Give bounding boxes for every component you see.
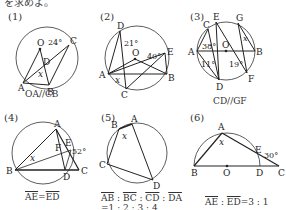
svg-text:D: D (117, 21, 124, 31)
arc-label: ED (227, 197, 241, 207)
svg-text:x: x (30, 153, 35, 163)
svg-text:B: B (168, 73, 175, 83)
arc-label: BC (123, 193, 137, 203)
svg-text:40°: 40° (147, 52, 161, 61)
svg-text:x: x (115, 75, 120, 85)
problem-4: (4) A F E B D C 52° x AE=ED (0, 109, 95, 210)
arc-label: AE (205, 197, 218, 207)
problem-6: (6) A E B O D C 30° x AE : ED=3 : 1 (186, 109, 286, 210)
svg-text:A: A (130, 114, 138, 124)
svg-text:C: C (99, 160, 106, 170)
arc-label: AB (101, 193, 114, 203)
svg-text:D: D (256, 168, 263, 178)
svg-text:38°: 38° (202, 42, 216, 51)
arc-label: ED (46, 192, 60, 202)
svg-text:D: D (63, 172, 70, 182)
problem-set: (1) O C D A B 24° x OA//CB (2) (0, 9, 286, 210)
svg-text:E: E (65, 138, 72, 148)
problem-2: (2) D O E A B C 21° 40° x (95, 9, 190, 109)
svg-text:C: C (81, 166, 88, 176)
problem-caption: AE=ED (25, 192, 59, 202)
svg-text:x: x (122, 131, 127, 141)
svg-text:30°: 30° (264, 151, 278, 160)
svg-text:A: A (187, 47, 195, 57)
svg-text:G: G (236, 13, 243, 23)
svg-text:F: F (248, 74, 254, 84)
problem-caption: CD//GF (213, 96, 247, 106)
problem-1: (1) O C D A B 24° x OA//CB (0, 9, 95, 109)
svg-text:21°: 21° (124, 39, 138, 48)
svg-text:C: C (121, 90, 128, 100)
arc-ratio-line: AB : BC : CD : DA (101, 193, 182, 203)
svg-text:C: C (278, 168, 285, 178)
svg-text:A: A (53, 119, 61, 129)
svg-text:D: D (153, 181, 160, 191)
svg-text:B: B (111, 120, 118, 130)
cropped-instruction-text: を求めよ。 (4, 0, 54, 9)
svg-text:D: D (43, 57, 50, 67)
arc-label: AE (25, 192, 38, 202)
problem-3: (3) C E G A O B D F 38° 11° 19° x CD//GF (186, 9, 286, 109)
svg-text:A: A (17, 83, 25, 93)
equals-sign: = (38, 192, 46, 202)
svg-text:A: A (217, 122, 225, 132)
svg-text:E: E (255, 145, 262, 155)
problem-caption: OA//CB (25, 89, 58, 99)
ratio-values: =1 : 2 : 3 : 4 (101, 203, 182, 210)
svg-text:24°: 24° (48, 38, 62, 47)
geometry-diagram-2: D O E A B C 21° 40° x (95, 9, 190, 109)
geometry-diagram-3: C E G A O B D F 38° 11° 19° x (186, 9, 286, 109)
svg-text:D: D (216, 82, 223, 92)
svg-text:B: B (256, 47, 263, 57)
svg-text:B: B (6, 166, 13, 176)
svg-text:19°: 19° (229, 60, 243, 69)
svg-text:52°: 52° (72, 147, 86, 156)
svg-text:11°: 11° (201, 60, 215, 69)
svg-text:E: E (167, 47, 174, 57)
geometry-diagram-6: A E B O D C 30° x (186, 109, 286, 210)
problem-caption: AE : ED=3 : 1 (205, 197, 268, 207)
svg-text:B: B (191, 168, 198, 178)
arc-label: CD (145, 193, 159, 203)
svg-text:x: x (243, 34, 248, 43)
svg-text:O: O (37, 38, 44, 48)
problem-caption: AB : BC : CD : DA =1 : 2 : 3 : 4 (101, 193, 182, 210)
svg-text:F: F (55, 143, 61, 153)
svg-text:C: C (203, 20, 210, 30)
problem-5: (5) B A C D x AB : BC : CD : DA =1 : 2 :… (95, 109, 190, 210)
svg-text:O: O (132, 48, 139, 58)
svg-text:O: O (222, 40, 229, 50)
arc-label: DA (168, 193, 182, 203)
svg-text:C: C (70, 36, 77, 46)
svg-text:x: x (219, 137, 224, 147)
svg-text:E: E (213, 12, 220, 22)
svg-text:O: O (223, 168, 230, 178)
svg-text:x: x (38, 69, 43, 79)
svg-text:A: A (98, 70, 106, 80)
